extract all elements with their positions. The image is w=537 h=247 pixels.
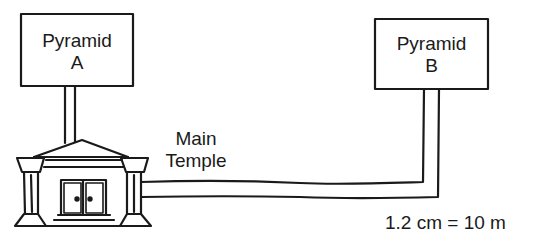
main-temple-line1: Main (158, 128, 234, 150)
pyramid-a-letter: A (21, 52, 133, 74)
scale-label: 1.2 cm = 10 m (385, 212, 506, 234)
main-temple-line2: Temple (158, 150, 234, 172)
pyramid-b-title: Pyramid (375, 33, 488, 55)
main-temple-label: Main Temple (158, 128, 234, 172)
pyramid-b-label: Pyramid B (375, 33, 488, 77)
pyramid-a-title: Pyramid (21, 30, 133, 52)
path-a-to-temple (65, 86, 75, 143)
temple-icon (15, 140, 151, 226)
pyramid-b-letter: B (375, 55, 488, 77)
pyramid-a-label: Pyramid A (21, 30, 133, 74)
